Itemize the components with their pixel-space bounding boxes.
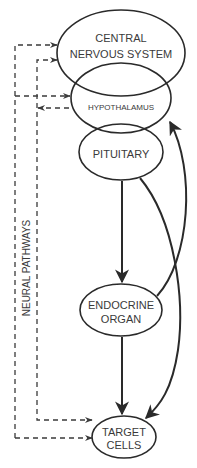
hypothalamus-label: HYPOTHALAMUS bbox=[88, 103, 154, 112]
hypothalamus-node bbox=[71, 63, 171, 133]
arrow-endocrine-to-hypothalamus bbox=[157, 122, 186, 296]
endocrine-label-line1: ENDOCRINE bbox=[88, 299, 154, 311]
target-label-line1: TARGET bbox=[102, 426, 146, 438]
neural-pathways-label: NEURAL PATHWAYS bbox=[21, 219, 32, 316]
arrow-pituitary-to-target bbox=[140, 178, 180, 418]
target-label-line2: CELLS bbox=[107, 439, 142, 451]
cns-label-line1: CENTRAL bbox=[95, 32, 146, 44]
endocrine-label-line2: ORGAN bbox=[101, 313, 141, 325]
cns-label-line2: NERVOUS SYSTEM bbox=[70, 48, 173, 60]
pituitary-label: PITUITARY bbox=[93, 148, 150, 160]
neural-inner-cns-to-target bbox=[37, 60, 92, 420]
endocrine-feedback-diagram: CENTRAL NERVOUS SYSTEM HYPOTHALAMUS PITU… bbox=[0, 0, 197, 468]
